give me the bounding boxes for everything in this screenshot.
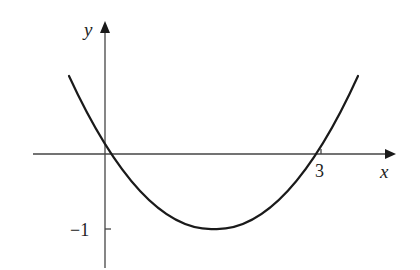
x-axis-arrow-icon bbox=[385, 149, 396, 159]
y-axis-label: y bbox=[82, 19, 93, 40]
y-tick-label-minus-1: −1 bbox=[70, 220, 89, 240]
parabola-curve bbox=[69, 76, 358, 229]
parabola-graph: y x 3 −1 bbox=[0, 0, 420, 270]
y-axis-arrow-icon bbox=[100, 21, 110, 33]
x-axis-label: x bbox=[379, 161, 389, 182]
x-tick-label-3: 3 bbox=[315, 161, 324, 181]
